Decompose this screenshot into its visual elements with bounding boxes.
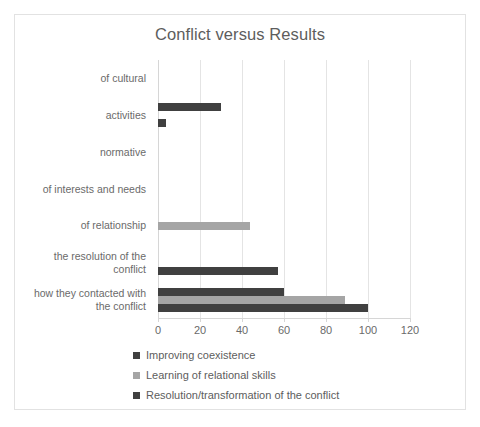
bar xyxy=(158,296,345,304)
plot-area xyxy=(158,60,410,318)
bar-group xyxy=(158,134,410,171)
bar-group xyxy=(158,244,410,281)
bar-series-group xyxy=(158,60,410,318)
legend-label: Resolution/transformation of the conflic… xyxy=(146,389,339,401)
x-tick-label: 40 xyxy=(222,324,262,336)
y-axis-label: of cultural xyxy=(12,72,146,85)
bar-group xyxy=(158,207,410,244)
bar xyxy=(158,103,221,111)
x-tick-label: 120 xyxy=(390,324,430,336)
x-tick-120 xyxy=(410,318,411,322)
legend-swatch-icon xyxy=(133,392,140,399)
legend-label: Learning of relational skills xyxy=(146,369,276,381)
y-axis-label: the resolution of theconflict xyxy=(12,250,146,276)
x-tick-label: 80 xyxy=(306,324,346,336)
bar-group xyxy=(158,97,410,134)
legend-item[interactable]: Improving coexistence xyxy=(15,345,465,365)
x-tick-0 xyxy=(158,318,159,322)
x-tick-100 xyxy=(368,318,369,322)
bar xyxy=(158,119,166,127)
chart-legend: Improving coexistenceLearning of relatio… xyxy=(15,345,465,405)
bar-group xyxy=(158,281,410,318)
x-tick-20 xyxy=(200,318,201,322)
x-tick-label: 20 xyxy=(180,324,220,336)
bar xyxy=(158,222,250,230)
legend-swatch-icon xyxy=(133,372,140,379)
bar xyxy=(158,304,368,312)
x-tick-label: 60 xyxy=(264,324,304,336)
y-axis-label: activities xyxy=(12,109,146,122)
x-tick-80 xyxy=(326,318,327,322)
gridline-120 xyxy=(410,60,411,318)
legend-swatch-icon xyxy=(133,352,140,359)
y-axis-label: of relationship xyxy=(12,219,146,232)
x-tick-label: 100 xyxy=(348,324,388,336)
y-axis-label: of interests and needs xyxy=(12,183,146,196)
legend-item[interactable]: Learning of relational skills xyxy=(15,365,465,385)
y-axis-label: how they contacted withthe conflict xyxy=(12,287,146,313)
bar-group xyxy=(158,60,410,97)
chart-title: Conflict versus Results xyxy=(15,25,465,44)
x-tick-60 xyxy=(284,318,285,322)
x-tick-40 xyxy=(242,318,243,322)
bar xyxy=(158,267,278,275)
y-axis-label: normative xyxy=(12,146,146,159)
bar-group xyxy=(158,171,410,208)
y-axis-category-labels: of culturalactivitiesnormativeof interes… xyxy=(15,60,153,318)
legend-label: Improving coexistence xyxy=(146,349,255,361)
legend-item[interactable]: Resolution/transformation of the conflic… xyxy=(15,385,465,405)
bar xyxy=(158,288,284,296)
x-tick-label: 0 xyxy=(138,324,178,336)
chart-container: Conflict versus Results of culturalactiv… xyxy=(14,14,466,410)
